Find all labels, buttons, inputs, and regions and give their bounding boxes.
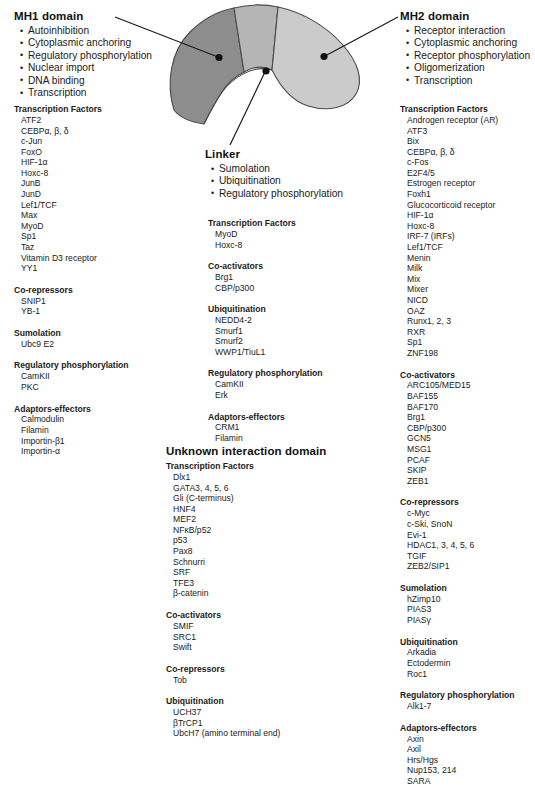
mh1-interactor-item: PKC xyxy=(21,382,184,393)
mh2-interactor-item: c-Ski, SnoN xyxy=(407,519,528,530)
mh2-function-list: Receptor interactionCytoplasmic anchorin… xyxy=(406,25,535,87)
unknown-group-items: UCH37βTrCP1UbcH7 (amino terminal end) xyxy=(166,707,366,739)
mh2-interactor-item: Menin xyxy=(407,253,528,264)
mh2-interactor-item: GCN5 xyxy=(407,433,528,444)
mh2-group: UbiquitinationArkadiaEctoderminRoc1 xyxy=(400,637,528,680)
mh1-function-item: Nuclear import xyxy=(20,62,194,74)
unknown-interactor-groups: Transcription FactorsDlx1GATA3, 4, 5, 6G… xyxy=(166,461,366,739)
unknown-group-title: Co-activators xyxy=(166,610,366,620)
linker-interactor-item: Hoxc-8 xyxy=(215,240,378,251)
mh2-interactor-item: PIASγ xyxy=(407,615,528,626)
linker-group: Co-activatorsBrg1CBP/p300 xyxy=(208,261,378,293)
unknown-interactor-item: SRF xyxy=(173,567,366,578)
mh1-function-item: DNA binding xyxy=(20,75,194,87)
unknown-domain-block: Unknown interaction domain Transcription… xyxy=(166,445,366,739)
unknown-interactor-item: SMIF xyxy=(173,621,366,632)
mh2-group-title: Ubiquitination xyxy=(400,637,528,647)
linker-group: Transcription FactorsMyoDHoxc-8 xyxy=(208,218,378,250)
unknown-group-title: Ubiquitination xyxy=(166,696,366,706)
mh2-interactor-item: IRF-7 (IRFs) xyxy=(407,231,528,242)
mh2-group-title: Co-activators xyxy=(400,370,528,380)
mh1-interactor-item: Ubc9 E2 xyxy=(21,339,184,350)
mh1-interactor-item: YY1 xyxy=(21,263,184,274)
mh1-function-item: Regulatory phosphorylation xyxy=(20,50,194,62)
mh2-interactor-item: PCAF xyxy=(407,455,528,466)
mh2-domain-shape xyxy=(272,7,360,109)
unknown-group: Co-activatorsSMIFSRC1Swift xyxy=(166,610,366,653)
mh2-interactor-item: Hoxc-8 xyxy=(407,221,528,232)
unknown-interactor-item: NFκB/p52 xyxy=(173,525,366,536)
mh2-interactor-item: Runx1, 2, 3 xyxy=(407,316,528,327)
mh2-domain-block: MH2 domain Receptor interactionCytoplasm… xyxy=(400,10,535,87)
mh1-function-list: AutoinhibitionCytoplasmic anchoringRegul… xyxy=(20,25,194,99)
mh2-interactor-item: c-Fos xyxy=(407,157,528,168)
linker-interactor-item: CBP/p300 xyxy=(215,283,378,294)
mh2-interactor-item: Arkadia xyxy=(407,647,528,658)
linker-interactor-item: CRM1 xyxy=(215,422,378,433)
mh2-interactor-item: Estrogen receptor xyxy=(407,178,528,189)
mh1-interactor-item: JunB xyxy=(21,178,184,189)
mh2-group-title: Transcription Factors xyxy=(400,104,528,114)
mh1-domain-block: MH1 domain AutoinhibitionCytoplasmic anc… xyxy=(14,10,194,99)
mh2-group: SumolationhZimp10PIAS3PIASγ xyxy=(400,583,528,626)
mh2-interactor-item: Alk1-7 xyxy=(407,701,528,712)
mh2-interactor-item: NICD xyxy=(407,295,528,306)
mh2-interactor-item: ATF3 xyxy=(407,126,528,137)
mh1-interactor-item: HIF-1α xyxy=(21,157,184,168)
unknown-group: Co-repressorsTob xyxy=(166,664,366,686)
mh2-group-title: Sumolation xyxy=(400,583,528,593)
mh1-interactor-item: SNIP1 xyxy=(21,296,184,307)
mh2-interactor-item: E2F4/5 xyxy=(407,168,528,179)
mh2-interactor-item: Brg1 xyxy=(407,412,528,423)
mh1-group: SumolationUbc9 E2 xyxy=(14,328,184,350)
linker-function-item: Sumolation xyxy=(211,163,380,175)
linker-interactor-item: WWP1/TiuL1 xyxy=(215,347,378,358)
mh1-interactor-item: CEBPα, β, δ xyxy=(21,126,184,137)
mh1-function-item: Transcription xyxy=(20,87,194,99)
unknown-interactor-item: p53 xyxy=(173,535,366,546)
unknown-interactor-item: Swift xyxy=(173,642,366,653)
mh2-group-items: ARC105/MED15BAF155BAF170Brg1CBP/p300GCN5… xyxy=(400,380,528,486)
mh1-function-item: Cytoplasmic anchoring xyxy=(20,37,194,49)
mh2-interactor-item: Milk xyxy=(407,263,528,274)
linker-group-title: Ubiquitination xyxy=(208,304,378,314)
mh2-interactor-item: HIF-1α xyxy=(407,210,528,221)
mh2-interactor-item: hZimp10 xyxy=(407,594,528,605)
mh1-interactor-item: Calmodulin xyxy=(21,414,184,425)
mh1-interactor-groups: Transcription FactorsATF2CEBPα, β, δc-Ju… xyxy=(14,104,184,457)
mh2-interactor-item: ARC105/MED15 xyxy=(407,380,528,391)
mh2-domain-title: MH2 domain xyxy=(400,10,535,22)
linker-function-item: Ubiquitination xyxy=(211,175,380,187)
mh1-interactor-item: CamKII xyxy=(21,371,184,382)
mh2-interactor-item: Mixer xyxy=(407,284,528,295)
linker-interactor-item: Erk xyxy=(215,390,378,401)
mh2-interactor-item: BAF155 xyxy=(407,391,528,402)
mh1-interactor-item: Max xyxy=(21,210,184,221)
linker-function-item: Regulatory phosphorylation xyxy=(211,188,380,200)
mh1-domain-title: MH1 domain xyxy=(14,10,194,22)
mh2-group-items: Alk1-7 xyxy=(400,701,528,712)
unknown-interactor-item: βTrCP1 xyxy=(173,718,366,729)
linker-group-title: Adaptors-effectors xyxy=(208,412,378,422)
unknown-interactor-item: Pax8 xyxy=(173,546,366,557)
unknown-group: UbiquitinationUCH37βTrCP1UbcH7 (amino te… xyxy=(166,696,366,739)
unknown-group-items: SMIFSRC1Swift xyxy=(166,621,366,653)
unknown-interactor-item: Tob xyxy=(173,675,366,686)
mh1-interactor-item: JunD xyxy=(21,189,184,200)
mh1-interactor-item: Lef1/TCF xyxy=(21,200,184,211)
mh1-group-items: Ubc9 E2 xyxy=(14,339,184,350)
linker-domain-title: Linker xyxy=(205,148,380,160)
unknown-interactor-item: Gli (C-terminus) xyxy=(173,493,366,504)
mh2-interactor-item: RXR xyxy=(407,327,528,338)
linker-interactor-item: Brg1 xyxy=(215,272,378,283)
unknown-group: Transcription FactorsDlx1GATA3, 4, 5, 6G… xyxy=(166,461,366,599)
linker-group-title: Regulatory phosphorylation xyxy=(208,368,378,378)
mh1-group-items: ATF2CEBPα, β, δc-JunFoxOHIF-1αHoxc-8JunB… xyxy=(14,115,184,274)
mh2-interactor-item: CBP/p300 xyxy=(407,423,528,434)
linker-group-title: Co-activators xyxy=(208,261,378,271)
mh1-group: Regulatory phosphorylationCamKIIPKC xyxy=(14,360,184,392)
unknown-domain-title: Unknown interaction domain xyxy=(166,445,366,457)
unknown-group-items: Dlx1GATA3, 4, 5, 6Gli (C-terminus)HNF4ME… xyxy=(166,472,366,599)
linker-group-items: CRM1Filamin xyxy=(208,422,378,443)
linker-interactor-item: MyoD xyxy=(215,229,378,240)
